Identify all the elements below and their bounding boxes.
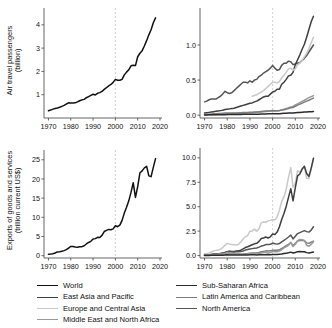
- plot-area-air-world: 1234197019801990200020102020: [0, 0, 166, 140]
- y-tick-label: 3: [36, 44, 40, 53]
- plot-area-exports-world: 0510152025197019801990200020102020: [0, 140, 166, 280]
- plot-area-exports-regions: 0.02.55.07.510.0197019801990200020102020: [166, 140, 332, 280]
- legend-item[interactable]: North America: [176, 303, 300, 314]
- y-tick-label: 7.5: [186, 178, 196, 187]
- panel-exports-world: Exports of goods and services (trillion …: [0, 140, 166, 280]
- legend-label: East Asia and Pacific: [63, 291, 134, 302]
- legend-label: World: [63, 280, 83, 291]
- y-tick-label: 0.0: [186, 251, 196, 260]
- x-tick-label: 1980: [63, 262, 79, 271]
- x-tick-label: 1980: [219, 122, 235, 131]
- y-tick-label: 5.0: [186, 202, 196, 211]
- panel-air-travel-regions: 0.00.51.0197019801990200020102020: [166, 0, 332, 140]
- legend-column-left: WorldEast Asia and PacificEurope and Cen…: [37, 280, 159, 326]
- legend-swatch-line: [176, 308, 197, 309]
- y-tick-label: 0.0: [186, 111, 196, 120]
- x-tick-label: 2010: [130, 122, 146, 131]
- x-tick-label: 1990: [242, 122, 258, 131]
- y-tick-label: 2: [36, 67, 40, 76]
- panel-air-travel-world: Air travel passengers (billion) 12341970…: [0, 0, 166, 140]
- x-tick-label: 1970: [40, 262, 56, 271]
- x-tick-label: 1990: [85, 122, 101, 131]
- legend-swatch-line: [37, 319, 58, 320]
- plot-area-air-regions: 0.00.51.0197019801990200020102020: [166, 0, 332, 140]
- x-tick-label: 1980: [63, 122, 79, 131]
- x-tick-label: 2010: [130, 262, 146, 271]
- x-tick-label: 2010: [287, 122, 303, 131]
- x-tick-label: 1990: [242, 262, 258, 271]
- x-tick-label: 2000: [107, 122, 123, 131]
- legend-item[interactable]: Latin America and Caribbean: [176, 291, 300, 302]
- legend-item[interactable]: Sub-Saharan Africa: [176, 280, 300, 291]
- legend-label: North America: [202, 303, 250, 314]
- x-tick-label: 2010: [287, 262, 303, 271]
- y-tick-label: 25: [32, 155, 40, 164]
- x-tick-label: 2020: [310, 262, 326, 271]
- legend-label: Latin America and Caribbean: [202, 291, 300, 302]
- legend-item[interactable]: World: [37, 280, 159, 291]
- x-tick-label: 1970: [40, 122, 56, 131]
- y-tick-label: 5: [36, 232, 40, 241]
- chart-legend: WorldEast Asia and PacificEurope and Cen…: [0, 280, 332, 328]
- series-line: [48, 18, 155, 111]
- legend-column-right: Sub-Saharan AfricaLatin America and Cari…: [176, 280, 300, 314]
- y-tick-label: 0.5: [186, 76, 196, 85]
- svg-air-world: 1234197019801990200020102020: [0, 0, 166, 140]
- y-tick-label: 1.0: [186, 41, 196, 50]
- y-tick-label: 20: [32, 175, 40, 184]
- legend-swatch-line: [37, 285, 58, 286]
- x-tick-label: 2000: [265, 262, 281, 271]
- y-tick-label: 0: [36, 251, 40, 260]
- panel-exports-regions: 0.02.55.07.510.0197019801990200020102020: [166, 140, 332, 280]
- series-line: [48, 159, 155, 255]
- y-tick-label: 4: [36, 20, 40, 29]
- svg-air-regions: 0.00.51.0197019801990200020102020: [166, 0, 332, 140]
- x-tick-label: 1990: [85, 262, 101, 271]
- x-tick-label: 1980: [219, 262, 235, 271]
- legend-swatch-line: [176, 297, 197, 298]
- legend-swatch-line: [37, 297, 58, 298]
- y-tick-label: 2.5: [186, 227, 196, 236]
- x-tick-label: 2020: [310, 122, 326, 131]
- x-tick-label: 2000: [107, 262, 123, 271]
- x-tick-label: 2000: [265, 122, 281, 131]
- y-tick-label: 10: [32, 213, 40, 222]
- legend-item[interactable]: Europe and Central Asia: [37, 303, 159, 314]
- legend-swatch-line: [37, 308, 58, 309]
- series-line: [205, 158, 314, 253]
- legend-item[interactable]: Middle East and North Africa: [37, 314, 159, 325]
- legend-label: Middle East and North Africa: [63, 314, 159, 325]
- figure-multi-panel-chart: Air travel passengers (billion) 12341970…: [0, 0, 332, 328]
- legend-swatch-line: [176, 285, 197, 286]
- svg-exports-regions: 0.02.55.07.510.0197019801990200020102020: [166, 140, 332, 280]
- x-tick-label: 1970: [197, 122, 213, 131]
- y-tick-label: 1: [36, 90, 40, 99]
- legend-item[interactable]: East Asia and Pacific: [37, 291, 159, 302]
- legend-label: Sub-Saharan Africa: [202, 280, 268, 291]
- svg-exports-world: 0510152025197019801990200020102020: [0, 140, 166, 280]
- x-tick-label: 1970: [197, 262, 213, 271]
- legend-label: Europe and Central Asia: [63, 303, 145, 314]
- y-tick-label: 10.0: [182, 153, 196, 162]
- y-tick-label: 15: [32, 194, 40, 203]
